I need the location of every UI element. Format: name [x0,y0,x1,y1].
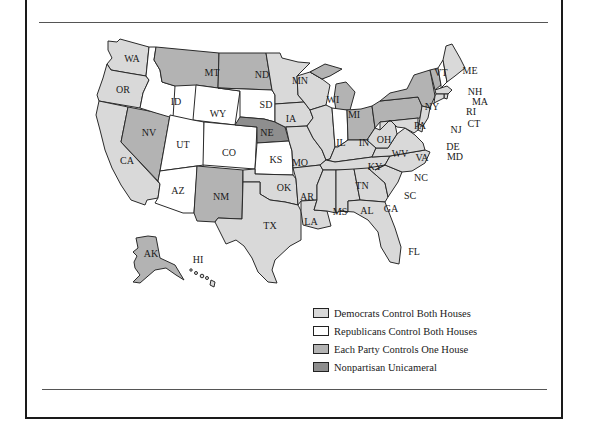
legend-swatch-dem [313,308,329,318]
svg-text:WI: WI [327,94,340,105]
legend-label-dem: Democrats Control Both Houses [334,308,471,319]
svg-text:VA: VA [415,152,429,163]
legend-item-dem: Democrats Control Both Houses [313,304,477,322]
svg-text:KY: KY [368,161,382,172]
svg-text:MD: MD [447,151,463,162]
svg-text:HI: HI [193,254,204,265]
svg-text:NV: NV [142,127,157,138]
svg-text:FL: FL [408,246,420,257]
legend-item-rep: Republicans Control Both Houses [313,322,477,340]
state-CO[interactable] [203,122,257,169]
svg-text:NM: NM [213,191,229,202]
legend-swatch-split [313,344,329,354]
state-HI[interactable] [190,269,215,287]
svg-text:AZ: AZ [171,185,184,196]
svg-text:VT: VT [434,67,447,78]
legend: Democrats Control Both Houses Republican… [313,304,477,376]
svg-text:UT: UT [176,139,189,150]
svg-text:CA: CA [120,155,135,166]
svg-text:TN: TN [355,180,368,191]
svg-text:NE: NE [260,127,273,138]
svg-text:NY: NY [425,101,439,112]
svg-text:RI: RI [466,106,476,117]
svg-text:OK: OK [277,182,292,193]
svg-text:GA: GA [384,203,399,214]
svg-text:CT: CT [468,118,481,129]
us-map: WA OR CA NV ID MT WY UT AZ CO NM ND SD N… [0,0,591,430]
svg-text:NJ: NJ [450,124,461,135]
svg-text:ID: ID [171,96,182,107]
legend-swatch-nonpartisan [313,362,329,372]
state-AK[interactable] [133,236,184,283]
svg-text:KS: KS [270,154,283,165]
svg-text:OH: OH [377,134,391,145]
svg-text:MT: MT [205,67,220,78]
svg-text:MI: MI [348,109,360,120]
svg-text:IL: IL [336,137,345,148]
svg-text:SD: SD [260,99,273,110]
svg-text:WV: WV [392,148,409,159]
svg-text:MS: MS [333,206,347,217]
state-RI[interactable] [444,94,448,99]
svg-text:SC: SC [404,190,417,201]
svg-text:WY: WY [210,108,227,119]
svg-text:MN: MN [292,75,308,86]
svg-text:NC: NC [414,172,428,183]
legend-swatch-rep [313,326,329,336]
svg-text:AL: AL [360,205,373,216]
svg-text:PA: PA [414,120,427,131]
svg-text:ND: ND [255,69,269,80]
legend-label-nonpartisan: Nonpartisan Unicameral [334,362,437,373]
svg-text:WA: WA [124,53,140,64]
svg-text:AK: AK [144,248,159,259]
svg-text:TX: TX [263,220,277,231]
svg-text:AR: AR [300,191,314,202]
svg-text:CO: CO [222,147,236,158]
svg-text:IN: IN [359,137,370,148]
svg-text:IA: IA [286,113,297,124]
legend-item-split: Each Party Controls One House [313,340,477,358]
svg-text:MO: MO [292,157,308,168]
legend-label-split: Each Party Controls One House [334,344,468,355]
legend-label-rep: Republicans Control Both Houses [334,326,477,337]
svg-text:ME: ME [463,65,478,76]
legend-item-nonpartisan: Nonpartisan Unicameral [313,358,477,376]
svg-text:LA: LA [304,216,318,227]
svg-text:OR: OR [116,84,130,95]
